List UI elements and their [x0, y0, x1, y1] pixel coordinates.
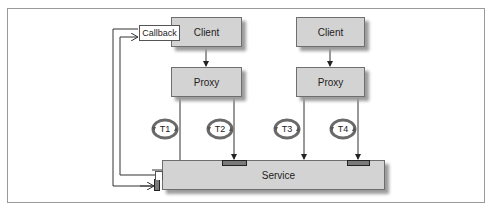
proxy-label-1: Proxy — [194, 77, 220, 88]
service-port-t4 — [347, 160, 370, 166]
client-box-1: Client — [171, 17, 242, 47]
thread-label-t4: T4 — [328, 118, 358, 140]
service-port-t2 — [222, 160, 247, 166]
thread-label-t2: T2 — [205, 118, 235, 140]
callback-port-housing — [155, 171, 163, 180]
thread-t4: T4 — [328, 118, 358, 140]
service-label: Service — [262, 170, 295, 181]
thread-t3: T3 — [272, 118, 302, 140]
thread-label-t3: T3 — [272, 118, 302, 140]
callback-box: Callback — [139, 25, 180, 41]
thread-t2: T2 — [205, 118, 235, 140]
proxy-label-2: Proxy — [318, 77, 344, 88]
thread-t1: T1 — [150, 118, 180, 140]
callback-label: Callback — [142, 28, 177, 38]
thread-label-t1: T1 — [150, 118, 180, 140]
client-label-1: Client — [194, 27, 220, 38]
proxy-box-1: Proxy — [171, 67, 242, 97]
callback-port — [154, 179, 160, 191]
client-box-2: Client — [296, 17, 365, 47]
proxy-box-2: Proxy — [296, 67, 365, 97]
client-label-2: Client — [318, 27, 344, 38]
